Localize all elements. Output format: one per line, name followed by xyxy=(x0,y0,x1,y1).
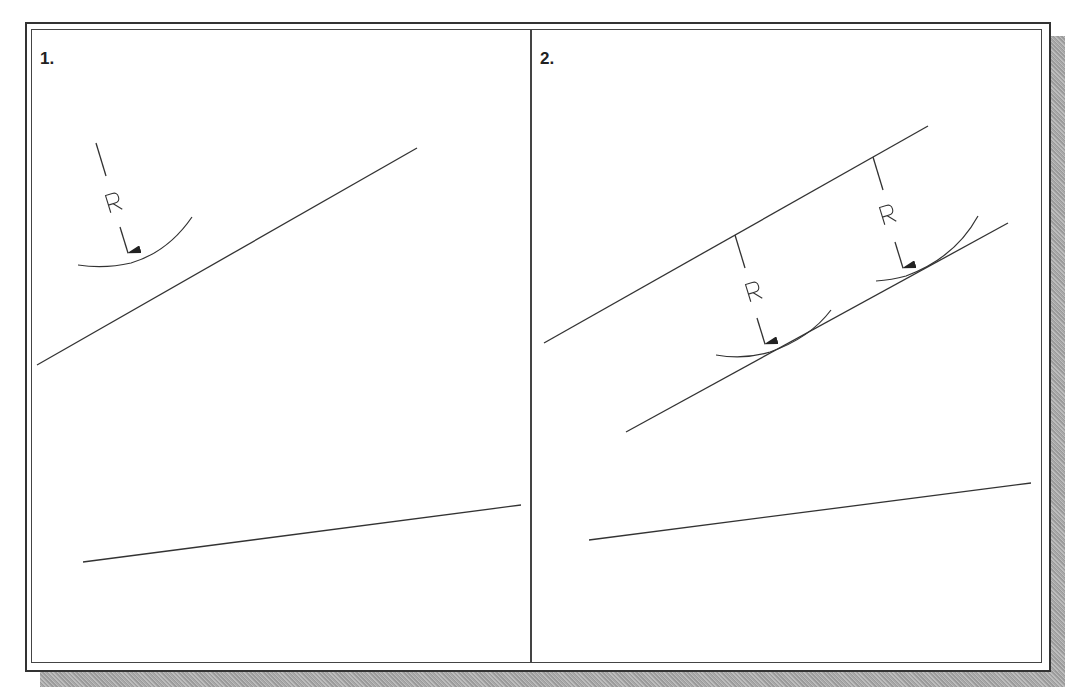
panel-1-radius-arc xyxy=(78,217,192,267)
panel-1-lower-line xyxy=(83,505,521,562)
panel-2-left-radius-arrow xyxy=(757,318,765,344)
panel-2-lower-line xyxy=(589,483,1031,540)
panel-1-drawing xyxy=(37,143,521,562)
construction-drawing xyxy=(0,0,1083,699)
panel-2-left-radius-label-r xyxy=(746,281,763,302)
panel-1-radius-label-r xyxy=(106,192,123,213)
panel-2-offset-line xyxy=(626,223,1008,432)
panel-2-left-radius-arc xyxy=(716,310,831,357)
panel-2-right-radius-leader xyxy=(873,157,883,190)
panel-1-radius-arrow xyxy=(120,227,128,253)
panel-1-upper-line xyxy=(37,148,417,365)
panel-2-left-radius-leader xyxy=(735,235,745,268)
panel-2-right-radius-arrow xyxy=(895,242,903,268)
panel-2-upper-line xyxy=(544,126,928,343)
panel-2-drawing xyxy=(544,126,1031,540)
panel-1-radius-leader xyxy=(96,143,106,176)
panel-2-right-radius-label-r xyxy=(880,204,897,225)
